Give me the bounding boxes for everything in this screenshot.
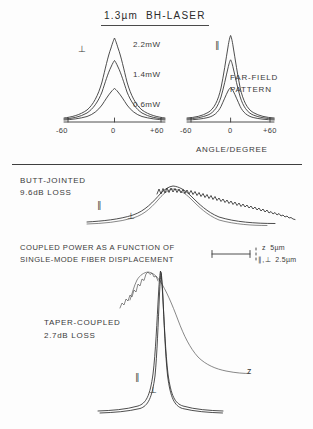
angle-axis-title: ANGLE/DEGREE bbox=[196, 145, 268, 155]
tick-label-right-plus60: +60 bbox=[263, 126, 277, 135]
butt-jointed-label-line2: 9.6dB LOSS bbox=[20, 188, 71, 198]
power-label-0-6mw: 0.6mW bbox=[133, 100, 160, 110]
power-label-2-2mw: 2.2mW bbox=[133, 40, 160, 50]
taper-coupled-parallel-curve-label: ∥ bbox=[135, 372, 141, 383]
butt-jointed-coupling-plot bbox=[85, 180, 305, 230]
figure-title: 1.3µm BH-LASER bbox=[104, 10, 206, 23]
tick-label-left-zero: 0 bbox=[111, 126, 115, 135]
scale-label-perp-par: ∥,⊥ 2.5µm bbox=[258, 256, 296, 265]
scale-label-z: z 5µm bbox=[262, 244, 285, 253]
title-underline bbox=[101, 25, 209, 26]
butt-jointed-perpendicular-curve-label: ⊥ bbox=[127, 211, 136, 222]
section-divider bbox=[12, 164, 302, 165]
tick-label-left-minus60: -60 bbox=[56, 126, 68, 135]
far-field-pattern-label-line1: FAR-FIELD bbox=[230, 72, 278, 84]
taper-coupled-plot bbox=[90, 268, 280, 423]
tick-label-right-zero: 0 bbox=[228, 126, 232, 135]
caption-line2: SINGLE-MODE FIBER DISPLACEMENT bbox=[20, 255, 174, 264]
butt-jointed-parallel-curve-label: ∥ bbox=[97, 200, 103, 211]
taper-coupled-label-line2: 2.7dB LOSS bbox=[44, 331, 95, 341]
taper-coupled-perpendicular-curve-label: ⊥ bbox=[149, 385, 158, 396]
power-label-1-4mw: 1.4mW bbox=[133, 70, 160, 80]
far-field-pattern-label-line2: PATTERN bbox=[230, 84, 272, 96]
butt-jointed-label-line1: BUTT-JOINTED bbox=[20, 176, 86, 186]
tick-label-left-plus60: +60 bbox=[150, 126, 164, 135]
figure-page: 1.3µm BH-LASER ⊥ -60 0 +60 2.2mW 1.4mW 0… bbox=[0, 0, 313, 429]
caption-line1: COUPLED POWER AS A FUNCTION OF bbox=[20, 243, 175, 252]
tick-label-right-minus60: -60 bbox=[180, 126, 192, 135]
taper-coupled-z-curve-label: z bbox=[247, 366, 252, 377]
